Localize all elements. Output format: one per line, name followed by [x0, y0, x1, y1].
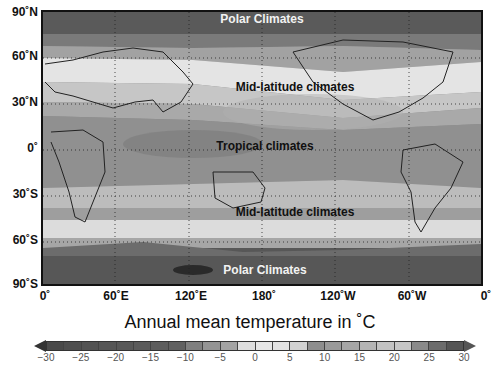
colorbar-tick-label: −5 — [214, 352, 225, 363]
colorbar-tick-label: 15 — [354, 352, 365, 363]
colorbar-tick-label: 0 — [252, 352, 258, 363]
colorbar-segment — [47, 342, 64, 350]
colorbar-segment — [342, 342, 359, 350]
colorbar-segment — [429, 342, 446, 350]
lat-label-60n: 60˚N — [0, 49, 38, 63]
lon-label-0-east: 0˚ — [481, 289, 492, 303]
zone-label-midlat-south: Mid-latitude climates — [236, 205, 355, 219]
zone-label-polar-north: Polar Climates — [220, 12, 303, 26]
colorbar-segment — [273, 342, 290, 350]
colorbar-segment — [290, 342, 307, 350]
colorbar-tick-label: −10 — [177, 352, 194, 363]
lat-label-0: 0˚ — [0, 141, 38, 155]
zone-label-tropical: Tropical climates — [216, 139, 313, 153]
colorbar-segment — [134, 342, 151, 350]
colorbar-segment — [82, 342, 99, 350]
colorbar-segment — [169, 342, 186, 350]
lat-label-90n: 90˚N — [0, 5, 38, 19]
colorbar-title: Annual mean temperature in ˚C — [0, 312, 500, 333]
lat-label-30n: 30˚N — [0, 95, 38, 109]
colorbar-segment — [64, 342, 81, 350]
colorbar-segment — [238, 342, 255, 350]
lat-label-30s: 30˚S — [0, 187, 38, 201]
colorbar-tick-label: −15 — [142, 352, 159, 363]
lon-label-180: 180˚ — [252, 289, 276, 303]
zone-label-midlat-north: Mid-latitude climates — [236, 80, 355, 94]
colorbar-segment — [203, 342, 220, 350]
colorbar-tick-label: 10 — [319, 352, 330, 363]
colorbar-tick-label: 30 — [458, 352, 469, 363]
colorbar-segment — [151, 342, 168, 350]
colorbar-max-arrow-icon — [464, 340, 476, 352]
lat-label-60s: 60˚S — [0, 233, 38, 247]
colorbar-segment — [447, 342, 463, 350]
colorbar-segment — [186, 342, 203, 350]
colorbar-tick-label: 20 — [389, 352, 400, 363]
colorbar-segment — [308, 342, 325, 350]
colorbar-segment — [117, 342, 134, 350]
colorbar-tick-label: −30 — [38, 352, 55, 363]
colorbar-segment — [221, 342, 238, 350]
colorbar-tick-label: −20 — [107, 352, 124, 363]
colorbar-segment — [412, 342, 429, 350]
colorbar-segment — [377, 342, 394, 350]
colorbar-min-arrow-icon — [34, 340, 46, 352]
lon-label-0: 0˚ — [40, 289, 51, 303]
lon-label-120w: 120˚W — [320, 289, 355, 303]
lat-label-90s: 90˚S — [0, 277, 38, 291]
colorbar-segment — [99, 342, 116, 350]
lon-label-120e: 120˚E — [175, 289, 207, 303]
colorbar-tick-label: −25 — [72, 352, 89, 363]
colorbar-segment — [256, 342, 273, 350]
colorbar-tick-label: 5 — [287, 352, 293, 363]
lon-label-60e: 60˚E — [103, 289, 128, 303]
lon-label-60w: 60˚W — [398, 289, 427, 303]
colorbar-segment — [360, 342, 377, 350]
colorbar — [46, 341, 464, 351]
colorbar-segment — [325, 342, 342, 350]
colorbar-tick-label: 25 — [424, 352, 435, 363]
zone-label-polar-south: Polar Climates — [223, 263, 306, 277]
colorbar-segment — [395, 342, 412, 350]
